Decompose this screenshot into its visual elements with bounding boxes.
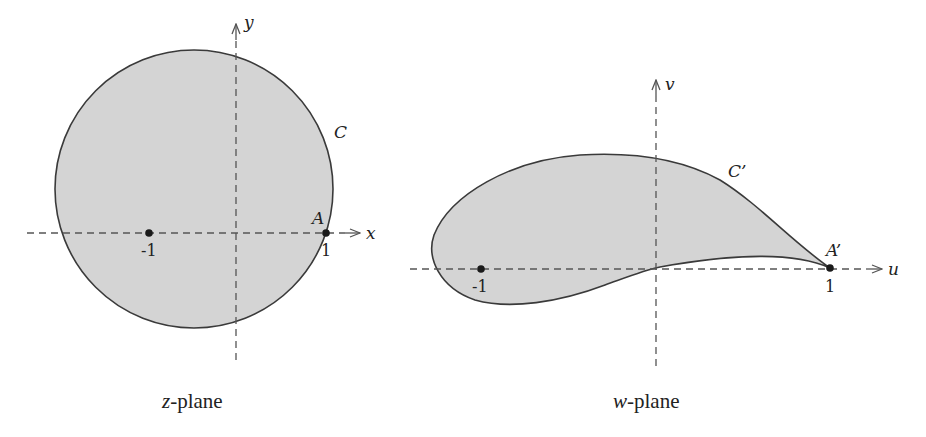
point-minus-one-w [477,265,485,273]
v-axis-label: v [665,74,675,94]
z-plane-caption-var: z [161,389,170,413]
w-plane-caption-var: w [613,389,627,413]
airfoil-region-c-prime [432,154,830,304]
y-axis-label: y [243,12,254,32]
z-plane-caption: z-plane [161,389,223,413]
tick-minus-one-label: -1 [141,241,157,260]
w-plane-diagram: u v C’ -1 A’ 1 w-plane [410,74,899,413]
u-axis-label: u [888,259,899,279]
w-plane-caption-rest: -plane [627,389,679,413]
tick-one-w-label: 1 [825,277,835,296]
z-plane-caption-rest: -plane [170,389,222,413]
curve-c-label: C [334,122,347,142]
tick-minus-one-w-label: -1 [472,277,488,296]
circle-region-c [55,50,333,328]
point-minus-one [145,229,153,237]
x-axis-label: x [366,223,376,243]
w-plane-caption: w-plane [613,389,680,413]
point-a-prime-label: A’ [824,240,841,260]
point-a [322,229,330,237]
point-a-label: A [310,208,324,228]
point-a-prime [826,264,834,272]
curve-c-prime-label: C’ [728,161,746,181]
z-plane-diagram: x y C -1 A 1 z-plane [27,12,376,413]
tick-one-label: 1 [321,241,331,260]
conformal-map-figure: x y C -1 A 1 z-plane u v C’ -1 [0,0,926,437]
